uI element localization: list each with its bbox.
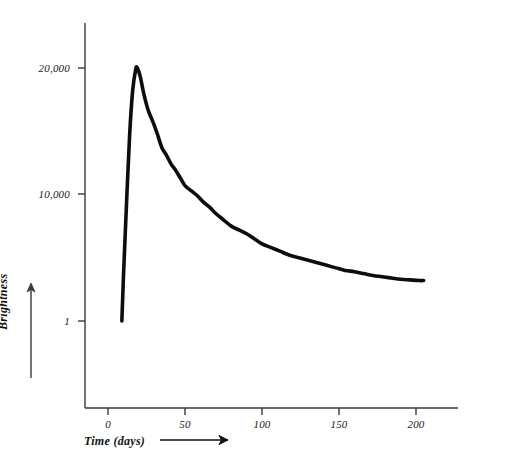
- light-curve-figure: 20,000 10,000 1 0 50 100 150 200 Time (d…: [0, 0, 514, 470]
- y-axis-title-arrow: [27, 283, 35, 378]
- brightness-curve: [122, 67, 424, 321]
- x-tick-label-0: 0: [105, 418, 111, 430]
- x-axis-title-arrow: [160, 436, 228, 445]
- x-tick-label-100: 100: [253, 418, 270, 430]
- x-axis-ticks: [108, 408, 416, 415]
- y-tick-label-10000: 10,000: [6, 188, 70, 200]
- x-axis-title: Time (days): [84, 434, 145, 449]
- x-tick-label-150: 150: [330, 418, 347, 430]
- y-tick-label-1: 1: [6, 315, 70, 327]
- chart-canvas: [0, 0, 514, 470]
- y-axis-title: Brightness: [0, 274, 11, 330]
- y-tick-label-20000: 20,000: [6, 62, 70, 74]
- x-tick-label-200: 200: [407, 418, 424, 430]
- x-tick-label-50: 50: [179, 418, 190, 430]
- y-axis-ticks: [78, 68, 85, 321]
